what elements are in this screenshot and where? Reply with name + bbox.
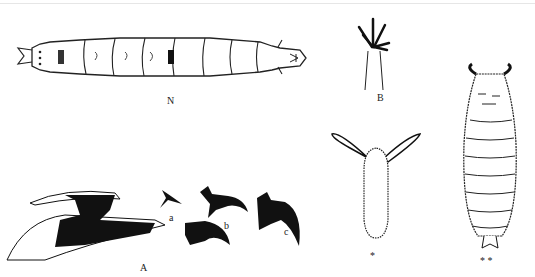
label-egg: * [370,250,375,261]
label-c: c [284,226,288,237]
puparium-illustration [456,64,526,254]
label-B: B [377,92,384,103]
top-border-line [0,3,535,4]
egg-illustration [328,130,424,240]
mouth-hook-c [255,190,305,250]
mouth-hook-a [158,188,184,212]
mouth-hook-b [198,184,250,220]
larva-illustration [10,30,310,80]
spiracle-illustration [355,15,395,90]
cephalopharyngeal-skeleton-illustration [5,185,230,265]
label-A: A [140,262,147,273]
label-puparium: * * [480,255,493,266]
label-a: a [169,212,173,223]
label-N: N [167,95,174,106]
label-b: b [224,220,229,231]
